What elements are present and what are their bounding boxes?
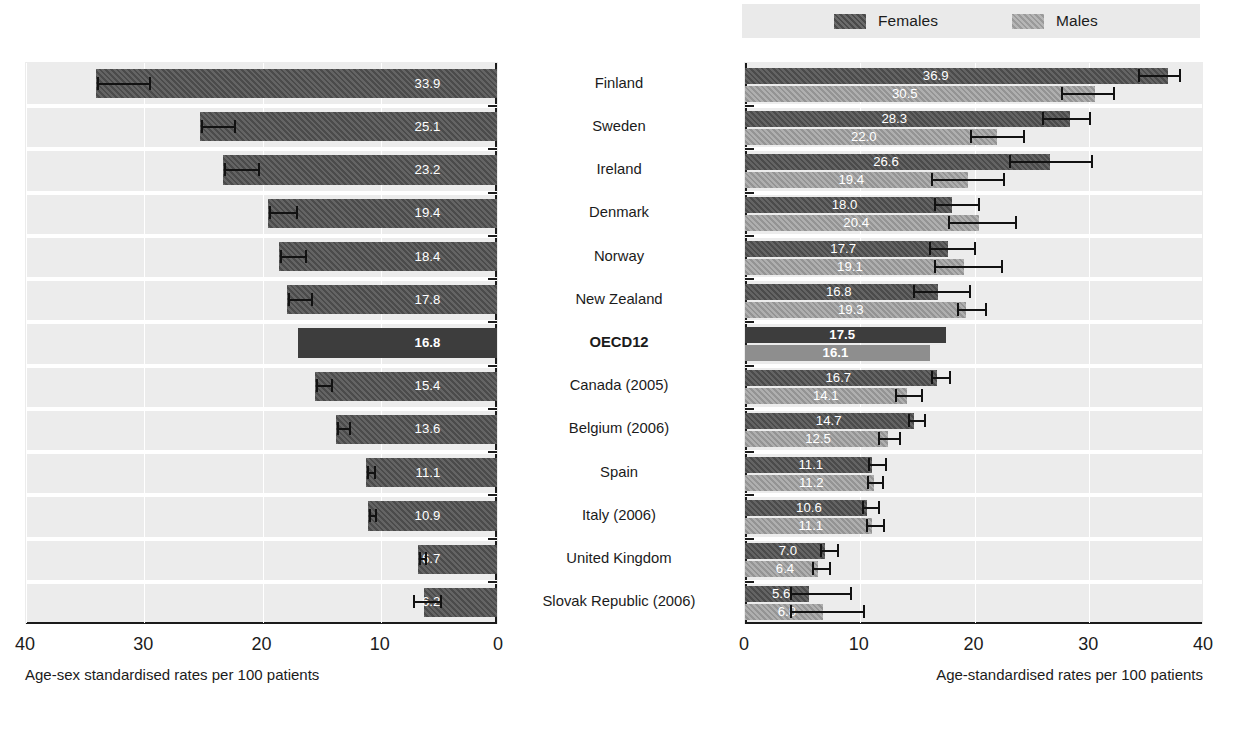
error-bar-cap [913,285,915,298]
row-separator [26,580,497,584]
error-bar-cap [924,414,926,427]
axis-tick-label: 30 [1078,634,1098,655]
gridline [1204,63,1205,623]
country-label: Denmark [500,204,738,220]
bar-row-females [745,154,1202,170]
category-tick [488,581,497,583]
country-label: Norway [500,248,738,264]
error-bar-cap [883,519,885,532]
error-bar [289,299,313,301]
bar-value-label: 18.0 [832,198,858,211]
bar-value-label: 17.7 [830,242,856,255]
error-bar-cap [812,562,814,575]
bar-value-label: 22.0 [851,130,877,143]
error-bar-cap [931,371,933,384]
error-bar [949,222,1016,224]
country-label: Canada (2005) [500,377,738,393]
bar-row: 18.4 [26,242,497,271]
error-bar [932,179,1004,181]
category-tick [488,235,497,237]
error-bar-cap [1042,112,1044,125]
bar-total [268,199,497,228]
row-separator [745,191,1202,195]
category-tick [745,451,754,453]
error-bar-cap [948,216,950,229]
left-axis-title: Age-sex standardised rates per 100 patie… [25,666,319,683]
axis-tick-label: 0 [493,634,503,655]
bar-total [287,285,497,314]
error-bar-cap [985,303,987,316]
row-separator [26,537,497,541]
error-bar-cap [305,250,307,263]
bar-value-label: 19.4 [415,206,441,219]
country-label: New Zealand [500,291,738,307]
error-bar-cap [899,432,901,445]
right-axis-tick-labels: 010203040 [744,634,1203,658]
bar-value-label: 12.5 [805,432,831,445]
row-separator [745,364,1202,368]
axis-tick-label: 0 [739,634,749,655]
error-bar [869,464,886,466]
bar-value-label: 30.5 [892,87,918,100]
bar-value-label: 14.7 [816,414,842,427]
error-bar [863,507,879,509]
bar-value-label: 15.4 [415,379,441,392]
category-tick [745,192,754,194]
error-bar-cap [970,130,972,143]
error-bar-cap [1179,69,1181,82]
bar-value-label: 11.1 [798,458,823,471]
row-separator [26,191,497,195]
error-bar-cap [440,595,442,608]
row-separator [26,493,497,497]
error-bar [930,248,975,250]
bar-value-label: 11.1 [798,519,823,532]
error-bar-cap [790,605,792,618]
error-bar-cap [878,432,880,445]
error-bar-cap [820,544,822,557]
bar-value-label: 25.1 [415,120,441,133]
row-separator [745,537,1202,541]
category-tick [745,494,754,496]
row-separator [26,277,497,281]
error-bar-cap [867,476,869,489]
bar-value-label: 16.1 [823,346,849,359]
error-bar-cap [1001,260,1003,273]
bar-value-label: 19.3 [838,303,864,316]
category-tick [745,321,754,323]
error-bar [813,568,830,570]
error-bar-cap [921,389,923,402]
error-bar-cap [349,422,351,435]
bar-value-label: 36.9 [923,69,949,82]
bar-value-label: 16.8 [415,336,441,349]
country-label: United Kingdom [500,550,738,566]
axis-tick-label: 10 [370,634,390,655]
error-bar-cap [862,501,864,514]
error-bar [909,420,925,422]
error-bar-cap [375,509,377,522]
row-separator [26,364,497,368]
error-bar [270,212,297,214]
error-bar-cap [878,501,880,514]
error-bar [868,482,883,484]
bar-value-label: 14.1 [813,389,839,402]
error-bar [1139,75,1180,77]
category-tick [488,365,497,367]
legend-label-females: Females [878,12,938,30]
error-bar-cap [258,163,260,176]
error-bar-cap [895,389,897,402]
legend-label-males: Males [1056,12,1098,30]
bar-row-males [745,86,1202,102]
row-separator [745,234,1202,238]
bar-total [315,372,497,401]
bar-row: 15.4 [26,372,497,401]
bar-value-label: 6.4 [776,562,794,575]
error-bar [281,256,306,258]
category-tick [745,235,754,237]
error-bar-cap [882,476,884,489]
bar-row-females [745,413,1202,429]
error-bar-cap [201,120,203,133]
error-bar [958,309,986,311]
bar-males [745,86,1095,102]
bar-row-females [745,370,1202,386]
error-bar-cap [931,173,933,186]
